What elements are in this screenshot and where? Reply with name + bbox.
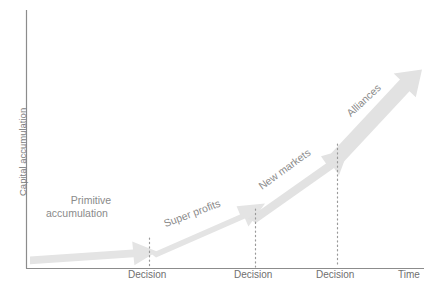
stage-label-line-1: Primitive [71, 194, 111, 206]
stage-label-primitive-accumulation: Primitive accumulation [60, 194, 122, 220]
decision-dotted-lines [150, 144, 338, 267]
x-axis-title: Time [398, 269, 420, 282]
x-tick-label-decision-3: Decision [316, 269, 354, 282]
x-tick-label-decision-1: Decision [128, 269, 166, 282]
x-tick-label-decision-2: Decision [234, 269, 272, 282]
diagram-svg [0, 0, 428, 286]
stage-label-line-2: accumulation [46, 207, 108, 219]
arrow-primitive-accumulation [30, 242, 157, 266]
figure-canvas: Capital accumulation Decision Decision D… [0, 0, 428, 286]
y-axis-title: Capital accumulation [17, 108, 29, 196]
